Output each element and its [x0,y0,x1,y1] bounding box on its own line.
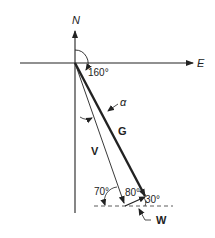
angle-70-label: 70° [94,186,109,197]
w-pointer [139,209,151,220]
vector-g [75,63,145,196]
vector-diagram: N E 160° G V α 70° 80° 30° W [0,0,215,238]
vector-v [75,63,124,203]
angle-30-label: 30° [145,194,160,205]
vector-v-label: V [91,145,99,157]
vector-w [125,197,145,206]
east-label: E [197,57,205,69]
vector-g-label: G [118,125,127,137]
alpha-pointer [108,104,118,111]
heading-angle-label: 160° [88,67,109,78]
north-label: N [72,14,80,26]
vector-w-label: W [156,214,167,226]
small-angle-arc [80,117,92,119]
alpha-label: α [120,96,127,108]
angle-80-label: 80° [125,187,140,198]
